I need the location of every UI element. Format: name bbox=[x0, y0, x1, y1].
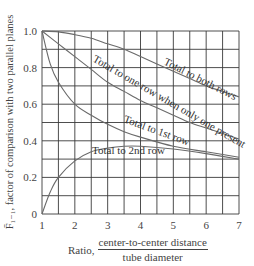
x-tick-label: 5 bbox=[171, 219, 177, 231]
x-tick-label: 2 bbox=[72, 219, 78, 231]
y-tick-label: 1.0 bbox=[23, 25, 37, 37]
y-tick-label: 0.2 bbox=[23, 171, 37, 183]
x-axis-label: Ratio, center-to-center distance tube di… bbox=[68, 236, 248, 264]
label-total-to-second-row: Total to 2nd row bbox=[92, 144, 165, 156]
x-axis-fraction: center-to-center distance tube diameter bbox=[98, 236, 208, 264]
y-tick-label: 0.8 bbox=[23, 62, 37, 74]
x-axis-label-prefix: Ratio, bbox=[68, 244, 95, 256]
x-axis-ticks: 1234567 bbox=[39, 219, 242, 231]
x-axis-numerator: center-to-center distance bbox=[98, 236, 208, 250]
y-tick-label: 0 bbox=[32, 208, 38, 220]
x-axis-denominator: tube diameter bbox=[123, 250, 183, 264]
x-tick-label: 4 bbox=[138, 219, 144, 231]
x-tick-label: 7 bbox=[236, 219, 242, 231]
y-tick-label: 0.4 bbox=[23, 135, 37, 147]
x-tick-label: 1 bbox=[39, 219, 45, 231]
y-tick-label: 0.6 bbox=[23, 98, 37, 110]
y-axis-label: F̄₁₋₁, factor of comparison with two par… bbox=[4, 15, 15, 230]
x-tick-label: 3 bbox=[105, 219, 111, 231]
y-axis-ticks: 00.20.40.60.81.0 bbox=[23, 25, 37, 220]
chart: 00.20.40.60.81.0 1234567 F̄₁₋₁, factor o… bbox=[0, 0, 254, 266]
x-tick-label: 6 bbox=[203, 219, 209, 231]
